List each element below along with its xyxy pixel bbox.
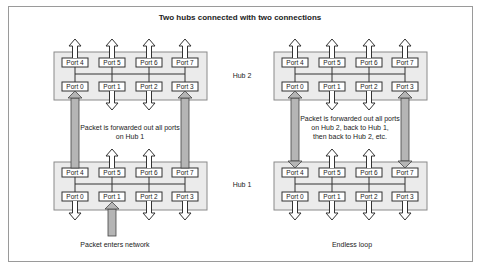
- right-annotation-line: on Hub 2, back to Hub 1,: [311, 124, 388, 131]
- port-label: Port 3: [396, 83, 414, 90]
- hub-loop-diagram: Two hubs connected with two connections …: [0, 0, 481, 271]
- port-label: Port 4: [66, 169, 84, 176]
- port-label: Port 2: [140, 193, 158, 200]
- port-label: Port 2: [140, 83, 158, 90]
- right-annotation-line: Packet is forwarded out all ports: [300, 115, 400, 123]
- hub-1-label: Hub 1: [233, 181, 252, 188]
- port-label: Port 1: [323, 193, 341, 200]
- port-label: Port 1: [103, 193, 121, 200]
- left-caption: Packet enters network: [80, 241, 150, 248]
- port-label: Port 6: [140, 59, 158, 66]
- port-label: Port 7: [176, 59, 194, 66]
- port-label: Port 7: [396, 59, 414, 66]
- port-label: Port 2: [360, 193, 378, 200]
- right-annotation-line: then back to Hub 2, etc.: [313, 133, 387, 140]
- port-label: Port 3: [176, 83, 194, 90]
- right-caption: Endless loop: [332, 241, 372, 249]
- port-label: Port 0: [66, 83, 84, 90]
- port-label: Port 5: [323, 59, 341, 66]
- hub-2-label: Hub 2: [233, 72, 252, 79]
- left-annotation-line: on Hub 1: [116, 133, 145, 140]
- port-label: Port 7: [396, 169, 414, 176]
- port-label: Port 0: [286, 83, 304, 90]
- port-label: Port 2: [360, 83, 378, 90]
- port-label: Port 5: [103, 169, 121, 176]
- left-annotation-line: Packet is forwarded out all ports: [80, 124, 180, 132]
- port-label: Port 4: [286, 169, 304, 176]
- port-label: Port 0: [286, 193, 304, 200]
- port-label: Port 4: [66, 59, 84, 66]
- port-label: Port 3: [396, 193, 414, 200]
- loop-arrow-icon: [288, 91, 302, 168]
- port-label: Port 6: [360, 169, 378, 176]
- port-label: Port 7: [176, 169, 194, 176]
- diagram-title: Two hubs connected with two connections: [159, 13, 322, 22]
- packet-arrow-icon: [178, 91, 192, 168]
- packet-entry-arrow-icon: [105, 202, 119, 236]
- port-label: Port 1: [323, 83, 341, 90]
- port-label: Port 5: [103, 59, 121, 66]
- port-label: Port 5: [323, 169, 341, 176]
- port-label: Port 6: [360, 59, 378, 66]
- port-label: Port 1: [103, 83, 121, 90]
- loop-arrow-icon: [398, 91, 412, 168]
- port-label: Port 4: [286, 59, 304, 66]
- port-label: Port 3: [176, 193, 194, 200]
- port-label: Port 6: [140, 169, 158, 176]
- port-label: Port 0: [66, 193, 84, 200]
